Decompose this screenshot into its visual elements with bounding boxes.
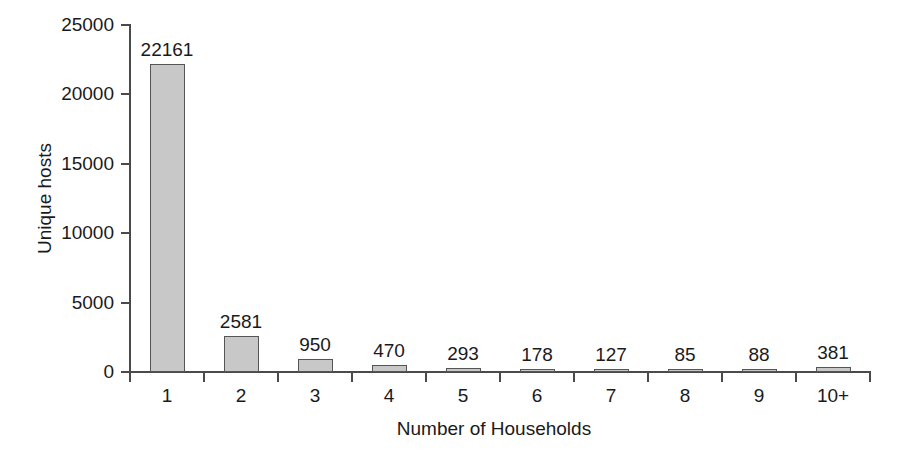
x-axis-tick-label: 4 — [352, 385, 426, 407]
x-axis-tick-label: 5 — [426, 385, 500, 407]
x-axis-tick-label: 10+ — [796, 385, 870, 407]
x-axis-tick — [203, 373, 205, 382]
y-axis-tick-label: 5000 — [14, 293, 114, 312]
y-axis-tick-label: 20000 — [14, 84, 114, 103]
x-axis-tick — [573, 373, 575, 382]
y-axis-tick — [121, 302, 129, 304]
x-axis-tick — [129, 373, 131, 382]
bar[interactable] — [520, 369, 555, 372]
y-axis-tick — [121, 371, 129, 373]
y-axis-tick — [121, 24, 129, 26]
bar-value-label: 2581 — [196, 312, 286, 331]
y-axis-tick-label: 0 — [14, 362, 114, 381]
x-axis-tick-label: 3 — [278, 385, 352, 407]
y-axis-tick-label: 15000 — [14, 154, 114, 173]
bar[interactable] — [594, 369, 629, 372]
x-axis-tick-label: 9 — [722, 385, 796, 407]
bar-value-label: 381 — [788, 343, 878, 362]
bar-value-label: 22161 — [122, 40, 212, 59]
bar[interactable] — [224, 336, 259, 372]
x-axis-tick — [499, 373, 501, 382]
bar[interactable] — [446, 368, 481, 372]
x-axis-tick-label: 8 — [648, 385, 722, 407]
x-axis-tick — [869, 373, 871, 382]
x-axis-tick-label: 7 — [574, 385, 648, 407]
x-axis-tick — [425, 373, 427, 382]
plot-area: 2216125819504702931781278588381 — [130, 25, 870, 372]
bar-chart-figure: Unique hosts 0500010000150002000025000 2… — [0, 0, 904, 459]
x-axis-tick — [277, 373, 279, 382]
y-axis-tick — [121, 232, 129, 234]
bar[interactable] — [816, 367, 851, 372]
bar[interactable] — [298, 359, 333, 372]
y-axis-tick-label: 25000 — [14, 15, 114, 34]
bar[interactable] — [668, 369, 703, 372]
y-axis-tick — [121, 163, 129, 165]
bar[interactable] — [150, 64, 185, 372]
x-axis-title: Number of Households — [0, 418, 904, 440]
x-axis-tick — [795, 373, 797, 382]
y-axis-tick-label: 10000 — [14, 223, 114, 242]
x-axis-tick-label: 6 — [500, 385, 574, 407]
bar[interactable] — [372, 365, 407, 372]
x-axis-tick — [647, 373, 649, 382]
y-axis-ticks: 0500010000150002000025000 — [0, 0, 130, 459]
x-axis-title-text: Number of Households — [397, 418, 591, 440]
x-axis-tick — [721, 373, 723, 382]
x-axis-tick-label: 2 — [204, 385, 278, 407]
y-axis-tick — [121, 93, 129, 95]
x-axis-tick-label: 1 — [130, 385, 204, 407]
bar[interactable] — [742, 369, 777, 372]
x-axis-tick — [351, 373, 353, 382]
